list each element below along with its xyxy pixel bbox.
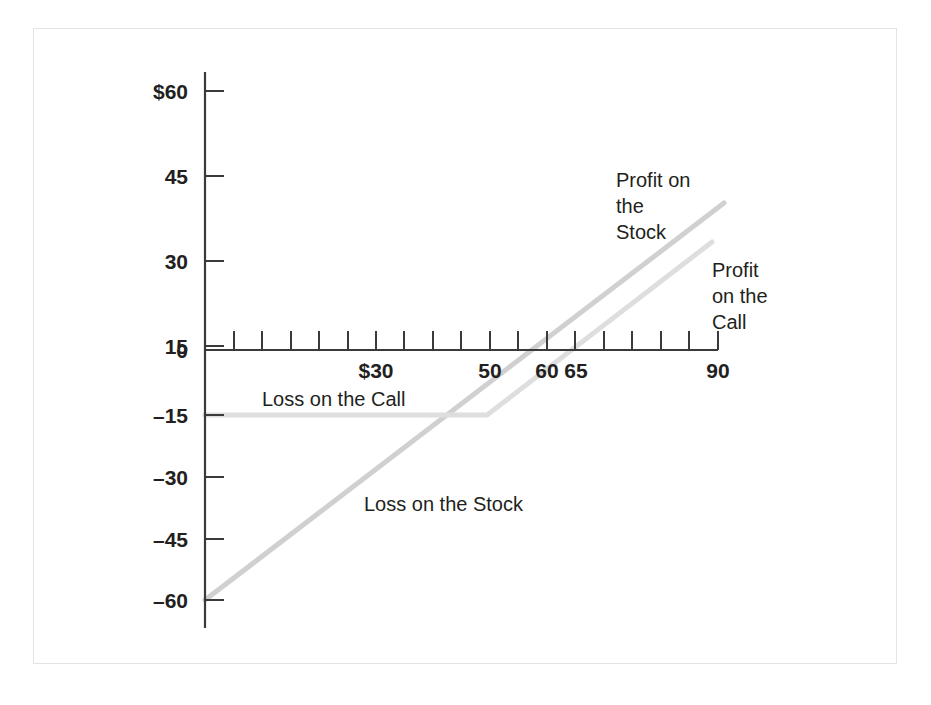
y-tick-label-minus30: –30 — [110, 465, 188, 491]
annotation-profit-on-the-call: Profit on the Call — [712, 257, 768, 335]
annotation-loss-on-the-call: Loss on the Call — [262, 386, 405, 412]
y-tick-label-60: $60 — [110, 79, 188, 105]
x-tick-label-90: 90 — [678, 358, 758, 384]
y-tick-label-minus15: –15 — [110, 403, 188, 429]
y-tick-label-30: 30 — [110, 249, 188, 275]
y-tick-label-45: 45 — [110, 164, 188, 190]
x-axis — [205, 331, 718, 350]
x-tick-label-65: 65 — [536, 358, 616, 384]
annotation-loss-on-the-stock: Loss on the Stock — [364, 491, 523, 517]
y-tick-label-minus60: –60 — [110, 588, 188, 614]
x-tick-label-30: $30 — [336, 358, 416, 384]
y-tick-label-minus45: –45 — [110, 527, 188, 553]
y-tick-label-0: 0 — [110, 338, 188, 364]
annotation-profit-on-the-stock: Profit on the Stock — [616, 167, 690, 245]
